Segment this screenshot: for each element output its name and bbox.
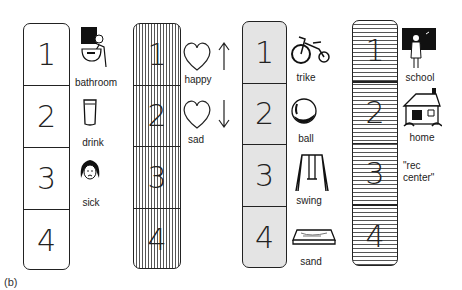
label-swing: swing: [293, 195, 325, 206]
cell-3: 3: [353, 144, 397, 206]
ball-icon: [291, 98, 317, 124]
number: 4: [365, 222, 384, 252]
label-home: home: [407, 132, 437, 143]
swing-icon: [292, 153, 332, 193]
number: 1: [255, 38, 274, 68]
label-sand: sand: [297, 256, 325, 267]
number: 3: [37, 164, 56, 194]
number: 2: [255, 99, 274, 129]
number: 2: [37, 102, 56, 132]
heart-down-icon: [182, 98, 232, 130]
cell-2: 2: [134, 86, 180, 147]
figure-caption: (b): [4, 276, 17, 288]
label-school: school: [403, 72, 437, 83]
sick-face-icon: [79, 158, 101, 182]
strip-dotted: 1 2 3 4: [242, 21, 287, 268]
strip-vertical: 1 2 3 4: [133, 23, 181, 269]
label-sick: sick: [74, 197, 108, 208]
cell-4: 4: [353, 206, 397, 266]
label-sad: sad: [182, 134, 210, 145]
heart-up-icon: [182, 40, 232, 72]
tricycle-icon: [291, 35, 331, 65]
house-icon: [402, 88, 442, 128]
number: 1: [365, 36, 384, 66]
cell-1: 1: [24, 24, 69, 86]
cell-1: 1: [353, 21, 397, 83]
cell-2: 2: [353, 83, 397, 144]
number: 3: [147, 163, 166, 193]
cell-1: 1: [134, 24, 180, 86]
cell-3: 3: [24, 148, 69, 210]
label-rec-center: "rec center": [403, 160, 443, 184]
label-bathroom: bathroom: [74, 77, 118, 88]
sandbox-icon: [291, 228, 336, 246]
cell-2: 2: [24, 86, 69, 148]
number: 4: [147, 225, 166, 255]
school-icon: [402, 28, 436, 70]
number: 3: [365, 159, 384, 189]
label-trike: trike: [292, 72, 320, 83]
bathroom-icon: [79, 27, 111, 77]
label-ball: ball: [295, 133, 317, 144]
strip-plain: 1 2 3 4: [23, 23, 70, 270]
strip-horizontal: 1 2 3 4: [352, 20, 398, 266]
label-drink: drink: [74, 137, 112, 148]
cell-3: 3: [243, 145, 286, 207]
number: 2: [365, 98, 384, 128]
cell-4: 4: [243, 207, 286, 268]
label-happy: happy: [182, 74, 214, 85]
number: 4: [37, 226, 56, 256]
cell-2: 2: [243, 84, 286, 145]
number: 1: [37, 40, 56, 70]
cup-icon: [83, 99, 97, 126]
number: 2: [147, 101, 166, 131]
number: 4: [255, 223, 274, 253]
cell-4: 4: [24, 210, 69, 270]
cell-1: 1: [243, 22, 286, 84]
number: 3: [255, 161, 274, 191]
cell-4: 4: [134, 209, 180, 269]
number: 1: [147, 40, 166, 70]
cell-3: 3: [134, 147, 180, 209]
